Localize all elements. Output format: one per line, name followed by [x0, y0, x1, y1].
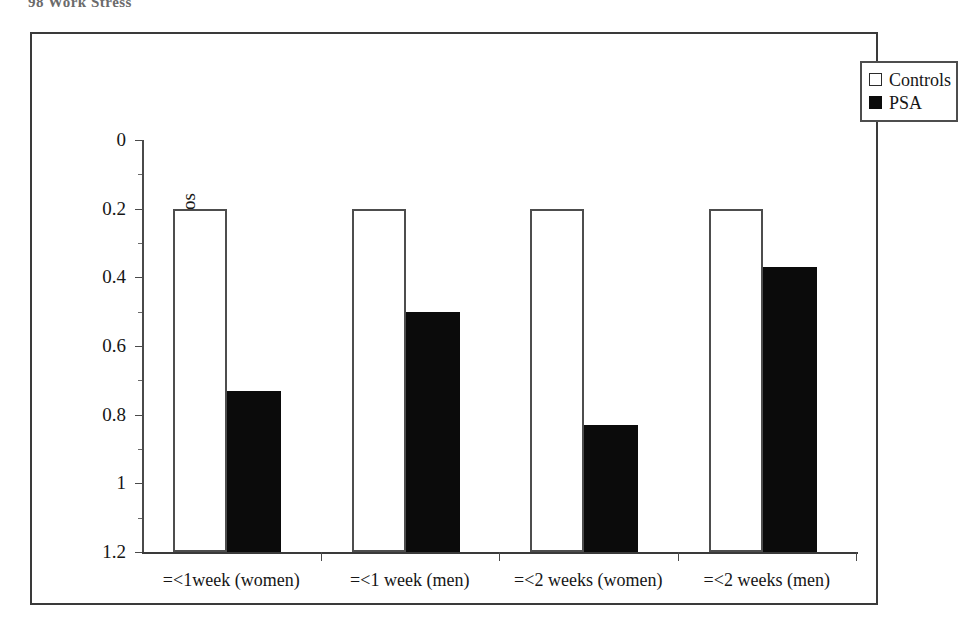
x-category-label: =<2 weeks (women) — [514, 570, 662, 591]
y-tick-minor-mark — [138, 449, 142, 450]
bar-psa — [406, 312, 460, 552]
bar-controls — [530, 209, 584, 552]
y-tick-label: 0 — [117, 129, 127, 151]
x-axis-line — [142, 552, 858, 554]
y-tick-minor-mark — [138, 380, 142, 381]
y-tick-label: 1 — [117, 472, 127, 494]
x-category-label: =<2 weeks (men) — [704, 570, 830, 591]
x-category-label: =<1week (women) — [163, 570, 300, 591]
bar-controls — [352, 209, 406, 552]
y-tick-label: 0.8 — [102, 404, 126, 426]
y-tick-minor-mark — [138, 174, 142, 175]
legend-label-psa: PSA — [889, 94, 922, 112]
bar-controls — [709, 209, 763, 552]
y-tick-minor-mark — [138, 518, 142, 519]
y-tick-label: 0.4 — [102, 266, 126, 288]
x-category-label: =<1 week (men) — [350, 570, 469, 591]
bar-psa — [227, 391, 281, 552]
y-tick-minor-mark — [138, 312, 142, 313]
chart-legend: Controls PSA — [860, 61, 958, 122]
y-tick-mark — [135, 277, 142, 278]
figure-frame: 1.210.80.60.40.20 odds ratios =<1week (w… — [30, 32, 878, 605]
y-tick-minor-mark — [138, 243, 142, 244]
x-tick-mark — [678, 552, 679, 561]
bars-layer — [144, 46, 858, 552]
y-tick-mark — [135, 415, 142, 416]
x-tick-mark — [856, 552, 857, 561]
y-tick-label: 1.2 — [102, 541, 126, 563]
y-tick-label: 0.2 — [102, 198, 126, 220]
y-tick-mark — [135, 552, 142, 553]
legend-swatch-controls-icon — [869, 73, 882, 86]
bar-psa — [763, 267, 817, 552]
plot-area: 1.210.80.60.40.20 odds ratios =<1week (w… — [142, 46, 868, 564]
y-tick-mark — [135, 209, 142, 210]
x-tick-mark — [499, 552, 500, 561]
bar-controls — [173, 209, 227, 552]
y-tick-mark — [135, 483, 142, 484]
legend-swatch-psa-icon — [869, 96, 882, 109]
y-tick-mark — [135, 346, 142, 347]
bar-psa — [584, 425, 638, 552]
y-tick-label: 0.6 — [102, 335, 126, 357]
legend-item-controls: Controls — [869, 68, 949, 91]
legend-label-controls: Controls — [889, 71, 951, 89]
legend-item-psa: PSA — [869, 91, 949, 114]
page-header-text: 98 Work Stress — [28, 0, 428, 12]
x-tick-mark — [321, 552, 322, 561]
y-tick-mark — [135, 140, 142, 141]
